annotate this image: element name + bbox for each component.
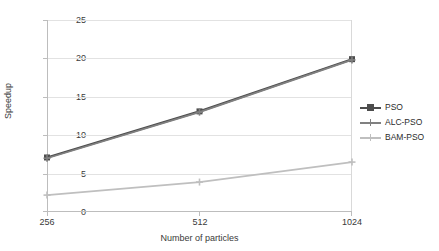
x-tick-label-1024: 1024 (322, 218, 382, 227)
legend-swatch-pso-icon (360, 102, 381, 113)
series-container (47, 20, 352, 212)
x-tick-label-256: 256 (17, 218, 77, 227)
legend-label-bam-pso: BAM-PSO (385, 133, 424, 142)
line-pso (47, 59, 352, 157)
x-axis-title: Number of particles (47, 233, 352, 243)
x-tick-256 (47, 212, 48, 216)
legend-label-pso: PSO (385, 103, 403, 112)
legend-swatch-bam-pso-icon (360, 132, 381, 143)
legend-label-alc-pso: ALC-PSO (385, 118, 422, 127)
speedup-line-chart: Speedup 25 20 15 10 5 0 256 512 1024 Num… (0, 0, 439, 251)
legend-marker-alc-pso (370, 119, 371, 126)
series-alc-pso (44, 56, 356, 161)
x-tick-512 (199, 212, 200, 216)
legend-item-pso[interactable]: PSO (360, 101, 436, 114)
x-tick-1024 (351, 212, 352, 216)
legend-marker-pso (367, 104, 374, 111)
legend-item-alc-pso[interactable]: ALC-PSO (360, 116, 436, 129)
series-bam-pso (44, 159, 356, 199)
y-axis-title: Speedup (3, 51, 13, 151)
legend-marker-bam-pso (370, 134, 371, 141)
legend: PSO ALC-PSO BAM-PSO (360, 101, 436, 146)
x-tick-label-512: 512 (170, 218, 230, 227)
legend-item-bam-pso[interactable]: BAM-PSO (360, 131, 436, 144)
plot-area (47, 20, 352, 212)
legend-swatch-alc-pso-icon (360, 117, 381, 128)
